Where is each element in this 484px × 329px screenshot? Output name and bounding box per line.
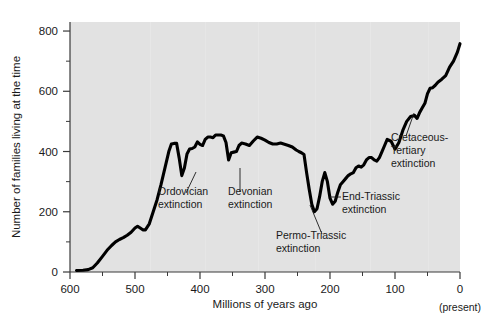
y-tick-label: 800 xyxy=(39,25,58,37)
annotation-label: extinction xyxy=(276,242,321,254)
y-tick-label: 200 xyxy=(39,206,58,218)
annotation-label: Tertiary xyxy=(391,144,426,156)
annotation-label: extinction xyxy=(228,198,273,210)
annotation-label: Cretaceous- xyxy=(391,131,449,143)
annotation-label: extinction xyxy=(342,203,387,215)
x-tick-label: 0 xyxy=(457,283,463,295)
y-tick-label: 400 xyxy=(39,146,58,158)
annotation-label: extinction xyxy=(391,157,436,169)
y-axis-ticks: 0200400600800 xyxy=(39,25,70,278)
x-tick-label: 100 xyxy=(385,283,404,295)
x-tick-label: 500 xyxy=(125,283,144,295)
annotation-label: extinction xyxy=(158,198,203,210)
y-axis-title: Number of families living at the time xyxy=(10,56,22,238)
x-tick-label: 600 xyxy=(60,283,79,295)
annotation-label: Ordovician xyxy=(158,185,208,197)
x-axis-ticks: 6005004003002001000 xyxy=(60,272,463,295)
x-axis-title: Millions of years ago xyxy=(213,298,318,310)
chart-canvas: 0200400600800 6005004003002001000 Ordovi… xyxy=(0,0,484,329)
annotation-label: Devonian xyxy=(228,185,273,197)
extinction-chart-figure: 0200400600800 6005004003002001000 Ordovi… xyxy=(0,0,484,329)
x-tick-label: 400 xyxy=(190,283,209,295)
x-tick-label: 200 xyxy=(320,283,339,295)
y-tick-label: 600 xyxy=(39,85,58,97)
y-tick-label: 0 xyxy=(52,266,58,278)
annotation-label: End-Triassic xyxy=(342,190,400,202)
x-tick-label: 300 xyxy=(255,283,274,295)
present-note-label: (present) xyxy=(439,301,481,313)
annotation-label: Permo-Triassic xyxy=(276,229,346,241)
